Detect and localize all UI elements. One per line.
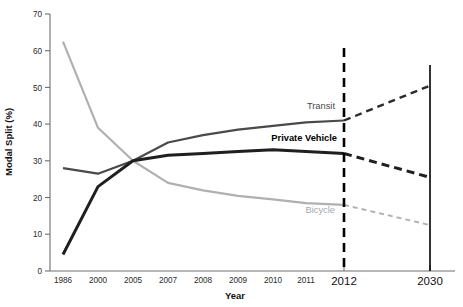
bicycle-forecast-path	[344, 205, 430, 225]
y-tick-label-40: 40	[33, 120, 43, 129]
x-axis-title: Year	[225, 290, 245, 301]
x-tick-label-2007: 2007	[159, 276, 178, 285]
x-tick-label-2008: 2008	[194, 276, 213, 285]
y-axis-ticks: 70 60 50 40 30 20 10 0	[33, 10, 50, 276]
y-tick-label-70: 70	[33, 10, 43, 19]
x-tick-label-2005: 2005	[124, 276, 143, 285]
x-tick-label-2010: 2010	[264, 276, 283, 285]
x-tick-label-2012: 2012	[331, 275, 357, 287]
y-tick-label-60: 60	[33, 47, 43, 56]
y-tick-label-0: 0	[37, 267, 42, 276]
transit-series-label: Transit	[307, 101, 335, 111]
x-tick-label-2009: 2009	[229, 276, 248, 285]
y-axis-title: Modal Split (%)	[3, 108, 14, 176]
modal-split-line-chart: 70 60 50 40 30 20 10 0 1986 2000 2005 20…	[0, 0, 463, 307]
x-tick-label-1986: 1986	[54, 276, 73, 285]
series-transit	[63, 86, 430, 174]
bicycle-series-label: Bicycle	[306, 205, 335, 215]
x-axis-ticks: 1986 2000 2005 2007 2008 2009 2010 2011 …	[54, 265, 443, 287]
x-tick-label-2000: 2000	[89, 276, 108, 285]
y-tick-label-50: 50	[33, 84, 43, 93]
y-tick-label-20: 20	[33, 194, 43, 203]
transit-solid-path	[63, 121, 344, 174]
chart-container: 70 60 50 40 30 20 10 0 1986 2000 2005 20…	[0, 0, 463, 307]
x-tick-label-2030: 2030	[417, 275, 443, 287]
x-tick-label-2011: 2011	[297, 276, 315, 285]
series-bicycle	[63, 42, 430, 226]
transit-forecast-path	[344, 86, 430, 121]
y-tick-label-30: 30	[33, 157, 43, 166]
axes	[50, 14, 455, 271]
y-tick-label-10: 10	[33, 230, 43, 239]
private-vehicle-series-label: Private Vehicle	[271, 133, 337, 143]
private-vehicle-forecast-path	[344, 154, 430, 178]
